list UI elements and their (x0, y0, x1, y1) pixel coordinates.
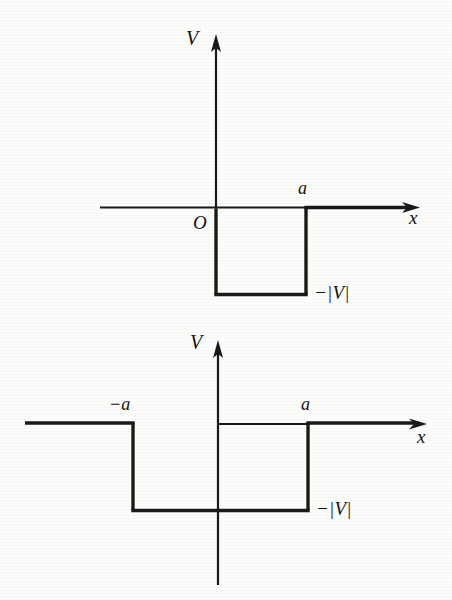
lower-well-right-edge-label: a (301, 395, 310, 413)
lower-well-left-edge-label: −a (109, 395, 131, 413)
lower-well-depth-label: −|V| (316, 499, 352, 518)
upper-origin-label: O (193, 213, 207, 232)
lower-x-axis-label: x (417, 427, 426, 446)
upper-x-axis-label: x (409, 208, 418, 227)
lower-y-axis-label: V (190, 332, 202, 352)
lower-panel-group (25, 340, 427, 585)
upper-well-right-edge-label: a (298, 179, 307, 197)
figure-root: V x O a −|V| V x −a a −|V| (0, 0, 452, 600)
potential-well-diagram (0, 0, 452, 600)
upper-y-axis-label: V (186, 28, 198, 48)
upper-panel-group (100, 34, 420, 295)
upper-well-depth-label: −|V| (314, 283, 350, 302)
